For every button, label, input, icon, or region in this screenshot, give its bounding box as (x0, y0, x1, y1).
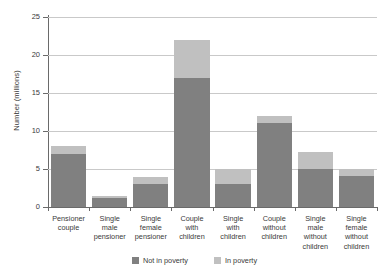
y-tick-label: 10 (16, 126, 40, 135)
x-axis-label-line: with (171, 223, 212, 232)
bar-stack (133, 177, 168, 207)
x-axis-label-line: couple (48, 223, 89, 232)
x-axis-ticks (48, 207, 377, 213)
bar-stack (174, 40, 209, 207)
x-axis-label-line: children (171, 232, 212, 241)
x-axis-label-line: without (254, 223, 295, 232)
legend-label: Not in poverty (143, 256, 188, 265)
bar-stack (339, 169, 374, 207)
bar-segment-in-poverty (51, 146, 86, 154)
y-tick-label: 5 (16, 164, 40, 173)
x-axis-label-line: Single (295, 214, 336, 223)
x-axis-label-line: male (89, 223, 130, 232)
x-axis-label: Singlemalewithoutchildren (295, 214, 336, 251)
x-axis-label-line: with (213, 223, 254, 232)
bar-stack (215, 169, 250, 207)
bar-segment-in-poverty (133, 177, 168, 185)
x-axis-label-line: female (130, 223, 171, 232)
x-axis-label: Couplewithoutchildren (254, 214, 295, 242)
legend-swatch (214, 257, 221, 264)
x-axis-label: Singlefemalepensioner (130, 214, 171, 242)
legend-item: In poverty (214, 256, 257, 265)
stacked-bar-chart: Number (millions) 0510152025 Pensionerco… (0, 0, 389, 277)
bar-series-layer (48, 17, 377, 207)
x-tick-mark (336, 207, 337, 211)
x-axis-label-line: Couple (254, 214, 295, 223)
x-axis-label-line: Single (89, 214, 130, 223)
x-axis-label-line: pensioner (89, 232, 130, 241)
x-axis-label-line: Pensioner (48, 214, 89, 223)
x-axis-label: Singlewithchildren (213, 214, 254, 242)
chart-legend: Not in povertyIn poverty (0, 256, 389, 265)
x-axis-label-line: female (336, 223, 377, 232)
bar-segment-not-in-poverty (51, 154, 86, 207)
x-tick-mark (213, 207, 214, 211)
bar-stack (298, 152, 333, 207)
bar-segment-in-poverty (339, 169, 374, 176)
x-axis-label-line: Single (213, 214, 254, 223)
x-axis-label: Couplewithchildren (171, 214, 212, 242)
bar-segment-not-in-poverty (339, 176, 374, 207)
x-axis-label-line: pensioner (130, 232, 171, 241)
y-tick-label: 25 (16, 12, 40, 21)
bar-segment-not-in-poverty (215, 184, 250, 207)
x-axis-label-line: children (213, 232, 254, 241)
y-tick-label: 0 (16, 202, 40, 211)
bar-stack (92, 196, 127, 207)
x-axis-label: Singlemalepensioner (89, 214, 130, 242)
x-tick-mark (377, 207, 378, 211)
bar-segment-not-in-poverty (257, 123, 292, 207)
x-tick-mark (130, 207, 131, 211)
x-tick-mark (295, 207, 296, 211)
bar-stack (51, 146, 86, 207)
bar-segment-in-poverty (174, 40, 209, 78)
x-axis-label-line: children (295, 242, 336, 251)
legend-item: Not in poverty (132, 256, 188, 265)
x-tick-mark (48, 207, 49, 211)
bar-segment-in-poverty (298, 152, 333, 169)
x-tick-mark (254, 207, 255, 211)
bar-stack (257, 116, 292, 207)
bar-segment-not-in-poverty (298, 169, 333, 207)
x-tick-mark (171, 207, 172, 211)
x-axis-label-line: Single (130, 214, 171, 223)
x-axis-label: Pensionercouple (48, 214, 89, 232)
x-axis-label-line: children (336, 242, 377, 251)
bar-segment-not-in-poverty (92, 198, 127, 207)
legend-label: In poverty (225, 256, 257, 265)
x-tick-mark (89, 207, 90, 211)
legend-swatch (132, 257, 139, 264)
y-axis-title: Number (millions) (12, 46, 21, 156)
bar-segment-not-in-poverty (174, 78, 209, 207)
bar-segment-in-poverty (215, 169, 250, 184)
x-axis-labels: PensionercoupleSinglemalepensionerSingle… (48, 214, 377, 254)
x-axis-label: Singlefemalewithoutchildren (336, 214, 377, 251)
bar-segment-not-in-poverty (133, 184, 168, 207)
x-axis-label-line: without (295, 232, 336, 241)
y-tick-label: 20 (16, 50, 40, 59)
x-axis-label-line: without (336, 232, 377, 241)
y-tick-label: 15 (16, 88, 40, 97)
x-axis-label-line: children (254, 232, 295, 241)
bar-segment-in-poverty (257, 116, 292, 124)
x-axis-label-line: Couple (171, 214, 212, 223)
x-axis-label-line: male (295, 223, 336, 232)
x-axis-label-line: Single (336, 214, 377, 223)
